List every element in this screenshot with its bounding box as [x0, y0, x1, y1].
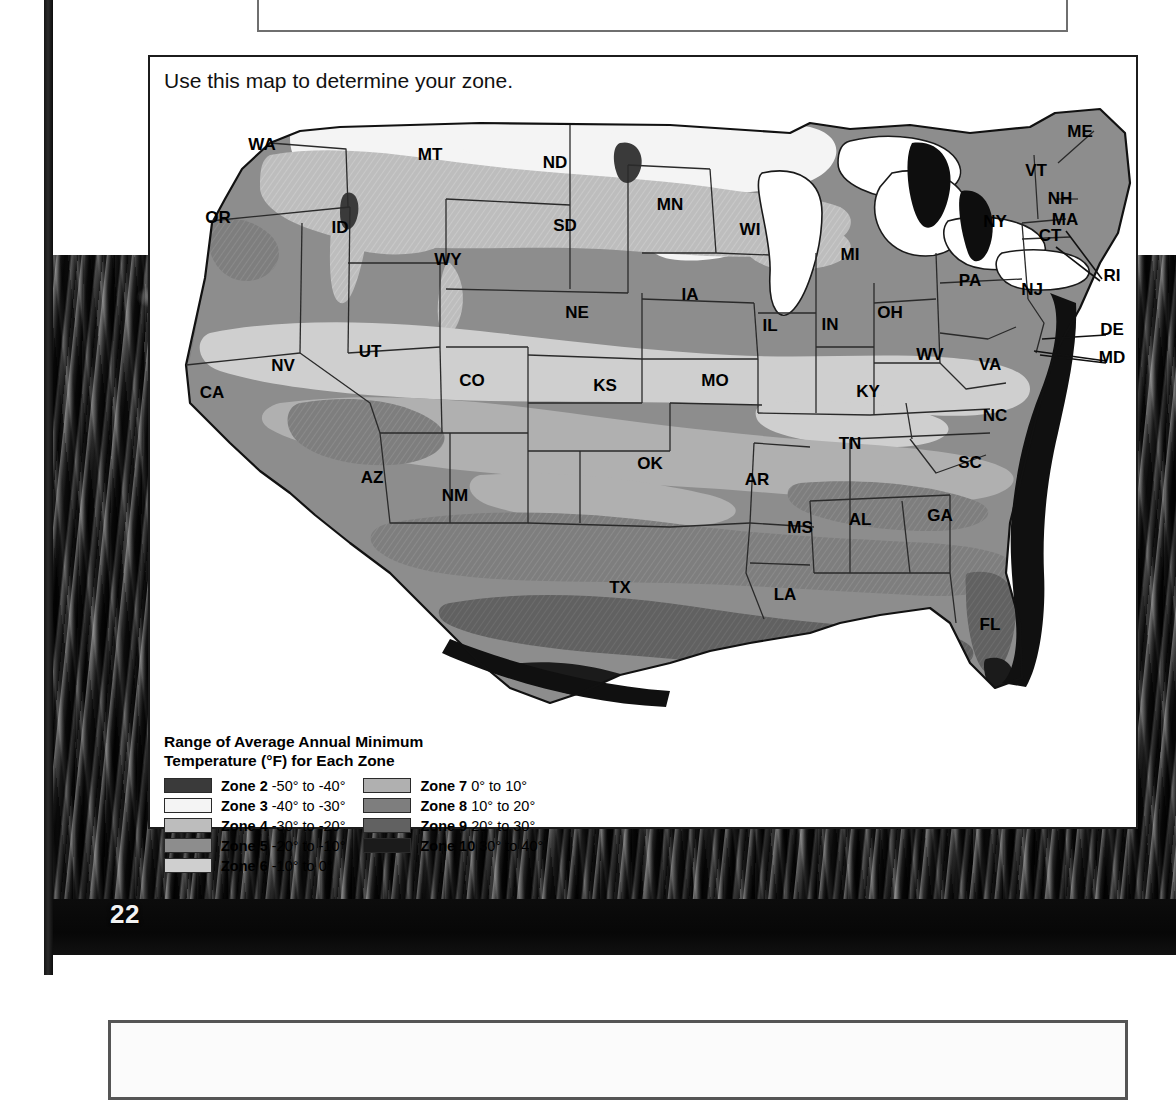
bottom-cutoff-box — [108, 1020, 1128, 1100]
state-label-ok: OK — [637, 454, 663, 473]
map-caption: Use this map to determine your zone. — [164, 69, 513, 93]
page-gutter-bar — [44, 0, 53, 975]
legend-label: Zone 8 10° to 20° — [420, 798, 535, 814]
legend-zone-name: Zone 7 — [420, 778, 467, 794]
legend-row: Zone 8 10° to 20° — [363, 797, 543, 815]
state-label-az: AZ — [361, 468, 384, 487]
legend-label: Zone 10 30° to 40° — [420, 838, 543, 854]
legend-zone-name: Zone 8 — [420, 798, 467, 814]
state-label-mn: MN — [657, 195, 683, 214]
state-label-va: VA — [979, 355, 1001, 374]
legend-zone-range: -40° to -30° — [268, 798, 346, 814]
legend-label: Zone 4 -30° to -20° — [221, 818, 345, 834]
state-label-tx: TX — [609, 578, 631, 597]
state-label-co: CO — [459, 371, 485, 390]
state-label-mo: MO — [701, 371, 728, 390]
legend-zone-name: Zone 10 — [420, 838, 475, 854]
map-legend: Range of Average Annual Minimum Temperat… — [164, 733, 684, 875]
top-cutoff-box — [257, 0, 1068, 32]
state-label-ky: KY — [856, 382, 880, 401]
state-label-ia: IA — [682, 285, 699, 304]
top-cutoff-text — [259, 0, 1066, 3]
state-label-oh: OH — [877, 303, 903, 322]
state-label-md: MD — [1099, 348, 1125, 367]
state-label-wy: WY — [434, 250, 462, 269]
legend-label: Zone 6 -10° to 0° — [221, 858, 333, 874]
legend-zone-range: -10° to 0° — [268, 858, 333, 874]
legend-label: Zone 7 0° to 10° — [420, 778, 527, 794]
legend-swatch — [363, 838, 411, 853]
state-label-la: LA — [774, 585, 797, 604]
state-label-ut: UT — [359, 342, 382, 361]
legend-swatch — [164, 858, 212, 873]
legend-title-line2: Temperature (°F) for Each Zone — [164, 752, 684, 771]
state-label-fl: FL — [980, 615, 1001, 634]
state-label-ct: CT — [1039, 226, 1062, 245]
state-label-ne: NE — [565, 303, 589, 322]
legend-swatch — [164, 838, 212, 853]
state-label-ny: NY — [983, 212, 1007, 231]
legend-label: Zone 9 20° to 30° — [420, 818, 535, 834]
state-label-pa: PA — [959, 271, 981, 290]
legend-zone-range: -20° to -10° — [268, 838, 346, 854]
legend-column-left: Zone 2 -50° to -40°Zone 3 -40° to -30°Zo… — [164, 777, 345, 875]
legend-zone-range: 30° to 40° — [475, 838, 543, 854]
legend-label: Zone 3 -40° to -30° — [221, 798, 345, 814]
legend-row: Zone 10 30° to 40° — [363, 837, 543, 855]
state-label-sc: SC — [958, 453, 982, 472]
legend-label: Zone 5 -20° to -10° — [221, 838, 345, 854]
state-label-ga: GA — [927, 506, 953, 525]
legend-row: Zone 7 0° to 10° — [363, 777, 543, 795]
state-label-mi: MI — [841, 245, 860, 264]
state-label-nd: ND — [543, 153, 568, 172]
legend-row: Zone 9 20° to 30° — [363, 817, 543, 835]
legend-zone-range: 10° to 20° — [467, 798, 535, 814]
legend-column-right: Zone 7 0° to 10°Zone 8 10° to 20°Zone 9 … — [363, 777, 543, 875]
state-label-vt: VT — [1025, 161, 1047, 180]
map-stage: WAORIDMTNDSDWYNVCAUTCONEMNIAWIMIKSMOILIN… — [150, 103, 1136, 827]
page-number: 22 — [110, 899, 140, 930]
state-label-ks: KS — [593, 376, 617, 395]
legend-zone-range: 0° to 10° — [467, 778, 527, 794]
legend-title: Range of Average Annual Minimum Temperat… — [164, 733, 684, 771]
state-label-tn: TN — [839, 434, 862, 453]
legend-zone-name: Zone 6 — [221, 858, 268, 874]
legend-swatch — [164, 818, 212, 833]
legend-row: Zone 6 -10° to 0° — [164, 857, 345, 875]
legend-swatch — [363, 818, 411, 833]
legend-title-line1: Range of Average Annual Minimum — [164, 733, 684, 752]
legend-row: Zone 4 -30° to -20° — [164, 817, 345, 835]
legend-zone-range: -50° to -40° — [268, 778, 346, 794]
legend-row: Zone 3 -40° to -30° — [164, 797, 345, 815]
state-label-wi: WI — [740, 220, 761, 239]
legend-zone-name: Zone 3 — [221, 798, 268, 814]
state-label-nm: NM — [442, 486, 468, 505]
state-label-de: DE — [1100, 320, 1124, 339]
hardiness-zone-map-panel: Use this map to determine your zone. — [148, 55, 1138, 829]
state-label-wa: WA — [248, 135, 275, 154]
state-label-wv: WV — [916, 345, 944, 364]
state-label-ms: MS — [787, 518, 813, 537]
usa-zone-map-svg: WAORIDMTNDSDWYNVCAUTCONEMNIAWIMIKSMOILIN… — [150, 103, 1136, 743]
state-label-me: ME — [1067, 122, 1093, 141]
state-label-nc: NC — [983, 406, 1008, 425]
state-label-il: IL — [762, 316, 777, 335]
legend-swatch — [164, 778, 212, 793]
photo-bottom-band — [53, 899, 1176, 955]
state-label-or: OR — [205, 208, 231, 227]
state-label-id: ID — [332, 218, 349, 237]
state-label-sd: SD — [553, 216, 577, 235]
state-label-in: IN — [822, 315, 839, 334]
legend-label: Zone 2 -50° to -40° — [221, 778, 345, 794]
state-label-mt: MT — [418, 145, 443, 164]
legend-zone-name: Zone 2 — [221, 778, 268, 794]
legend-swatch — [164, 798, 212, 813]
state-label-nj: NJ — [1021, 280, 1043, 299]
legend-row: Zone 5 -20° to -10° — [164, 837, 345, 855]
legend-swatch — [363, 778, 411, 793]
state-label-ar: AR — [745, 470, 770, 489]
legend-row: Zone 2 -50° to -40° — [164, 777, 345, 795]
state-label-ri: RI — [1104, 266, 1121, 285]
state-label-nh: NH — [1048, 189, 1073, 208]
